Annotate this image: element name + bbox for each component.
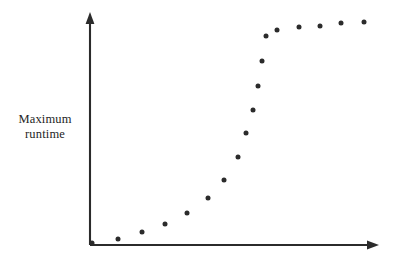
data-point	[251, 108, 256, 113]
data-point	[116, 237, 121, 242]
data-point	[222, 178, 227, 183]
data-point	[206, 196, 211, 201]
chart-figure: Maximum runtime	[0, 0, 407, 273]
data-point	[140, 230, 145, 235]
data-point	[264, 34, 269, 39]
data-point	[236, 155, 241, 160]
y-axis-arrow-icon	[86, 12, 95, 24]
data-point	[318, 24, 323, 29]
axes-group	[86, 12, 379, 249]
data-point	[185, 211, 190, 216]
data-point-group	[90, 20, 367, 246]
data-point	[275, 28, 280, 33]
data-point	[90, 241, 95, 246]
data-point	[256, 84, 261, 89]
data-point	[362, 20, 367, 25]
data-point	[297, 25, 302, 30]
y-axis-label: Maximum runtime	[8, 112, 82, 142]
data-point	[163, 222, 168, 227]
x-axis-arrow-icon	[367, 241, 379, 250]
data-point	[339, 21, 344, 26]
data-point	[260, 59, 265, 64]
data-point	[244, 131, 249, 136]
